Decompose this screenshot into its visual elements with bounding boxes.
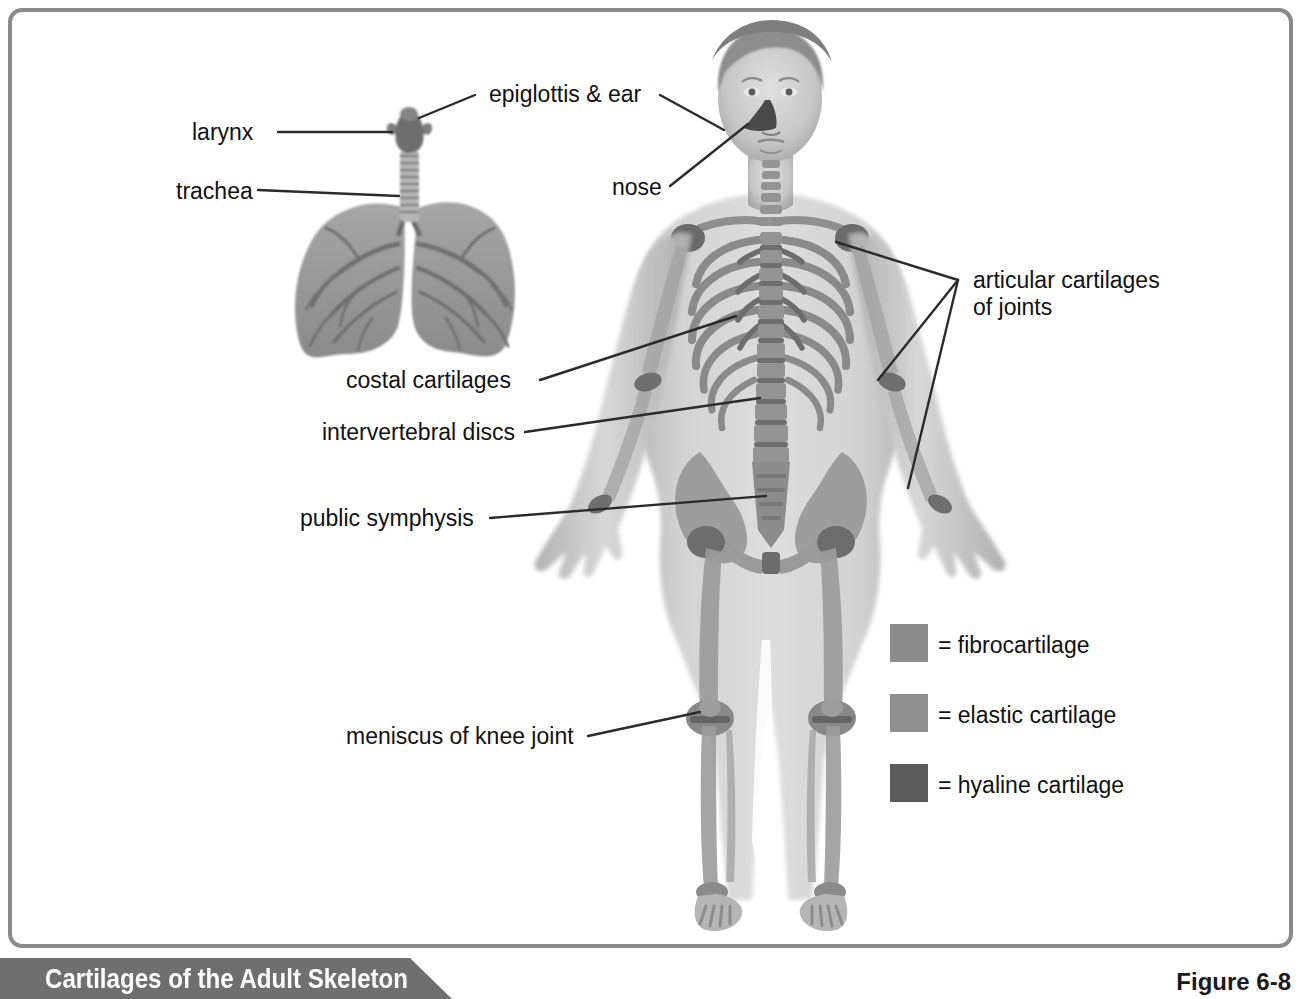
anatomy-artwork: epiglottis & ear larynx trachea nose art… [0,0,1305,999]
legend-swatch-hyaline-cartilage [890,764,928,802]
legend-swatch-fibrocartilage [890,624,928,662]
label-nose: nose [612,174,662,200]
legend-swatch-elastic-cartilage [890,694,928,732]
leader-nose [670,124,748,186]
label-articular-line1: articular cartilages [973,267,1160,293]
feet [695,882,848,931]
label-trachea: trachea [176,178,253,204]
leader-epiglottis [419,95,475,118]
legend-label-elastic-cartilage: = elastic cartilage [938,702,1116,729]
label-pubic: public symphysis [300,505,474,531]
respiratory-illustration [295,107,515,357]
legend-label-fibrocartilage: = fibrocartilage [938,632,1090,659]
pubic-symphysis-marker [762,552,780,574]
figure-number: Figure 6-8 [1176,968,1291,996]
label-meniscus: meniscus of knee joint [346,723,574,749]
leader-ear [660,95,724,130]
figure-canvas: epiglottis & ear larynx trachea nose art… [0,0,1305,999]
label-intervertebral: intervertebral discs [322,419,515,445]
label-costal: costal cartilages [346,367,511,393]
pelvis [675,452,867,574]
legend-label-hyaline-cartilage: = hyaline cartilage [938,772,1124,799]
label-articular-line2: of joints [973,294,1052,320]
human-body-xray [535,20,1006,931]
leader-trachea [258,190,399,196]
label-larynx: larynx [192,119,254,145]
label-epiglottis-ear: epiglottis & ear [489,81,641,107]
banner-title: Cartilages of the Adult Skeleton [45,963,408,996]
leader-meniscus [588,712,700,736]
